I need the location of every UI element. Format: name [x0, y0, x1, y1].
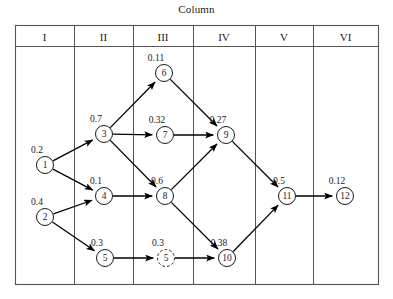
node-weight-label: 0.38 [211, 238, 228, 248]
node-weight-label: 0.1 [90, 176, 102, 186]
nodes-group: 10.220.430.740.150.360.1170.3280.650.390… [31, 53, 353, 267]
edge-1-to-4 [53, 169, 93, 190]
column-headers: IIIIIIIVVVI [43, 31, 352, 43]
node-label: 3 [102, 129, 107, 139]
node-weight-label: 0.5 [273, 176, 285, 186]
node-8[interactable]: 80.6 [151, 176, 173, 205]
edge-3-to-7 [113, 134, 152, 135]
node-3[interactable]: 30.7 [90, 114, 112, 143]
edge-8-to-9 [171, 144, 217, 190]
node-label: 2 [43, 212, 48, 222]
column-header-i: I [43, 31, 47, 43]
node-weight-label: 0.3 [91, 238, 103, 248]
node-weight-label: 0.12 [329, 176, 346, 186]
node-7[interactable]: 70.32 [149, 115, 174, 144]
column-header-iii: III [158, 31, 169, 43]
node-label: 7 [163, 130, 168, 140]
node-weight-label: 0.32 [149, 115, 166, 125]
node-4[interactable]: 40.1 [90, 176, 112, 205]
node-label: 9 [224, 130, 229, 140]
node-weight-label: 0.7 [90, 114, 102, 124]
edge-2-to-5 [52, 222, 94, 251]
column-header-ii: II [100, 31, 108, 43]
node-label: 5 [164, 253, 169, 263]
node-label: 10 [222, 253, 232, 263]
node-weight-label: 0.27 [210, 115, 227, 125]
column-grid [15, 25, 379, 285]
node-label: 5 [103, 253, 108, 263]
diagram-canvas: 10.220.430.740.150.360.1170.3280.650.390… [0, 0, 393, 299]
node-weight-label: 0.3 [152, 238, 164, 248]
node-5[interactable]: 50.3 [91, 238, 113, 267]
node-label: 12 [340, 191, 350, 201]
table-frame [16, 26, 379, 285]
node-weight-label: 0.11 [148, 53, 165, 63]
node-2[interactable]: 20.4 [31, 197, 53, 226]
node-12[interactable]: 120.12 [329, 176, 354, 205]
network-diagram-figure: Column 10.220.430.740.150.360.1170.3280.… [0, 0, 393, 299]
node-label: 1 [43, 160, 48, 170]
node-11[interactable]: 110.5 [273, 176, 295, 205]
edge-2-to-4 [53, 200, 92, 214]
node-weight-label: 0.6 [151, 176, 163, 186]
edge-1-to-3 [53, 140, 93, 161]
column-header-v: V [280, 31, 288, 43]
column-header-vi: VI [340, 31, 352, 43]
node-10[interactable]: 100.38 [211, 238, 236, 267]
figure-caption: Column [0, 3, 393, 15]
edges-group [52, 79, 332, 258]
node-weight-label: 0.4 [31, 197, 43, 207]
node-6[interactable]: 60.11 [148, 53, 173, 82]
column-header-iv: IV [218, 31, 230, 43]
node-label: 11 [282, 191, 291, 201]
node-1[interactable]: 10.2 [31, 145, 53, 174]
node-weight-label: 0.2 [31, 145, 43, 155]
node-label: 4 [102, 191, 107, 201]
node-label: 8 [163, 191, 168, 201]
node-label: 6 [162, 68, 167, 78]
node-9[interactable]: 90.27 [210, 115, 235, 144]
node-5p[interactable]: 50.3 [152, 238, 174, 267]
